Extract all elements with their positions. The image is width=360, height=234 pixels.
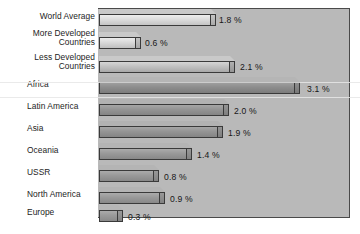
bar-front-face (99, 210, 118, 222)
bar-front-face (99, 37, 136, 49)
bar-front-face (99, 104, 224, 116)
category-label: North America (27, 190, 102, 199)
value-label: 2.1 % (240, 62, 263, 72)
bar-front-face (99, 148, 187, 160)
bar-front-face (99, 14, 211, 26)
category-label: USSR (27, 168, 102, 177)
category-label: World Average (20, 12, 95, 21)
value-label: 1.9 % (228, 128, 251, 138)
bar-front-face (99, 192, 160, 204)
bar-front-face (99, 61, 230, 73)
category-label: Asia (27, 124, 102, 133)
category-label: More Developed Countries (20, 29, 95, 48)
value-label: 3.1 % (307, 84, 330, 94)
scan-artifact-line (0, 82, 360, 83)
bar-front-face (99, 126, 218, 138)
value-label: 0.8 % (164, 172, 187, 182)
value-label: 0.3 % (128, 212, 151, 222)
bar-front-face (99, 82, 295, 94)
value-label: 0.9 % (170, 194, 193, 204)
category-label: Less Developed Countries (20, 53, 95, 72)
value-label: 0.6 % (145, 38, 168, 48)
bar-rows: World Average 1.8 % More Developed Count… (0, 0, 360, 234)
bar-chart: World Average 1.8 % More Developed Count… (0, 0, 360, 234)
value-label: 2.0 % (234, 106, 257, 116)
category-label: Europe (27, 208, 102, 217)
category-label: Oceania (27, 146, 102, 155)
value-label: 1.4 % (197, 150, 220, 160)
bar-front-face (99, 170, 154, 182)
value-label: 1.8 % (219, 15, 242, 25)
category-label: Latin America (27, 102, 102, 111)
scan-artifact-line (0, 97, 360, 98)
